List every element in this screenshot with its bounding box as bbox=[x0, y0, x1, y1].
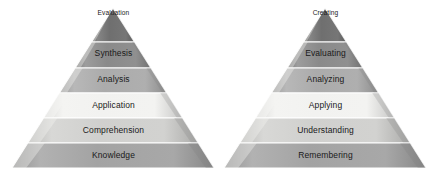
blooms-taxonomy-figure: Evaluation Synthesis Analysis Applicatio… bbox=[0, 0, 434, 177]
pyramid-original-blooms-taxonomy: Evaluation Synthesis Analysis Applicatio… bbox=[0, 0, 217, 177]
pyramid-shape-original bbox=[0, 0, 217, 177]
pyramid-shape-revised bbox=[217, 0, 434, 177]
pyramid-revised-blooms-taxonomy: Creating Evaluating Analyzing Applying U… bbox=[217, 0, 434, 177]
